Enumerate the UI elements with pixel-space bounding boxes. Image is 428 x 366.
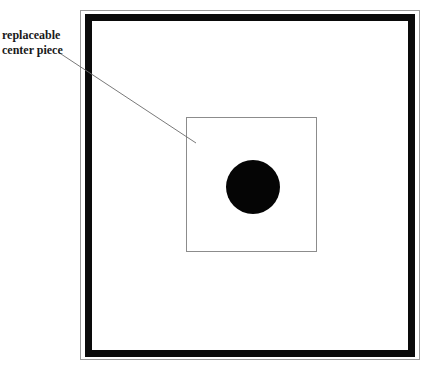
center-circle-target: [226, 160, 280, 214]
diagram-canvas: replaceable center piece: [0, 0, 428, 366]
callout-label-line2: center piece: [2, 43, 60, 58]
callout-label-line1: replaceable: [2, 28, 60, 43]
callout-label: replaceable center piece: [2, 28, 60, 58]
